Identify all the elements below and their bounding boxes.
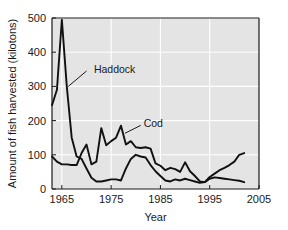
x-tick-label: 1985 (148, 193, 172, 205)
x-tick-label: 1995 (197, 193, 221, 205)
y-tick-label: 200 (28, 115, 46, 127)
y-tick-label: 400 (28, 46, 46, 58)
chart-figure: 010020030040050019651975198519952005 Had… (0, 0, 288, 230)
x-tick-label: 1965 (50, 193, 74, 205)
y-tick-label: 100 (28, 149, 46, 161)
annotation-label-haddock: Haddock (94, 63, 136, 75)
annotation-label-cod: Cod (144, 117, 163, 129)
y-tick-label: 0 (40, 183, 46, 195)
x-tick-label: 1975 (99, 193, 123, 205)
x-axis-title: Year (144, 211, 167, 223)
x-tick-label: 2005 (247, 193, 271, 205)
fish-harvest-line-chart: 010020030040050019651975198519952005 Had… (0, 0, 288, 230)
y-tick-label: 300 (28, 80, 46, 92)
y-tick-label: 500 (28, 12, 46, 24)
y-axis-title: Amount of fish harvested (kilotons) (6, 19, 18, 188)
